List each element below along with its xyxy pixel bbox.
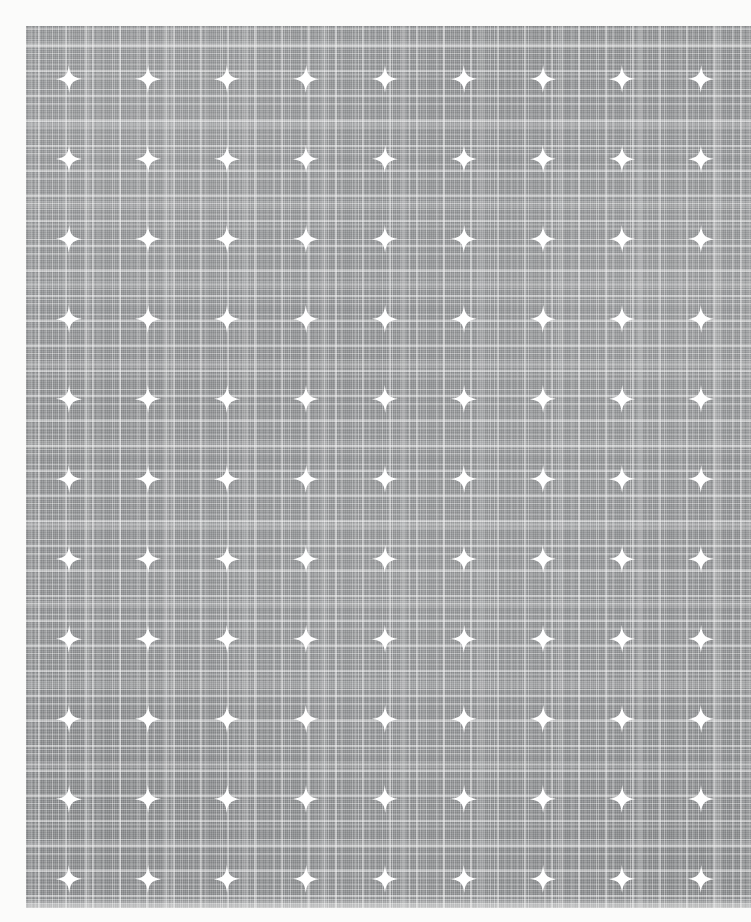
four-pointed-sparkle-icon: [135, 785, 161, 813]
four-pointed-sparkle-icon: [135, 225, 161, 253]
four-pointed-sparkle-icon: [56, 385, 82, 413]
four-pointed-sparkle-icon: [56, 225, 83, 254]
four-pointed-sparkle-icon: [372, 145, 399, 174]
four-pointed-sparkle-icon: [688, 385, 714, 413]
four-pointed-sparkle-icon: [293, 65, 320, 94]
four-pointed-sparkle-icon: [293, 465, 320, 494]
four-pointed-sparkle-icon: [293, 385, 319, 413]
four-pointed-sparkle-icon: [372, 225, 398, 253]
four-pointed-sparkle-icon: [372, 465, 398, 493]
four-pointed-sparkle-icon: [451, 385, 477, 413]
four-pointed-sparkle-icon: [688, 305, 715, 334]
four-pointed-sparkle-icon: [609, 385, 636, 414]
four-pointed-sparkle-icon: [56, 465, 83, 494]
four-pointed-sparkle-icon: [688, 465, 715, 494]
four-pointed-sparkle-icon: [609, 65, 635, 93]
image-canvas: [0, 0, 751, 922]
four-pointed-sparkle-icon: [56, 625, 83, 654]
four-pointed-sparkle-icon: [609, 465, 635, 493]
four-pointed-sparkle-icon: [135, 305, 162, 334]
four-pointed-sparkle-icon: [609, 865, 635, 893]
four-pointed-sparkle-icon: [530, 305, 557, 334]
four-pointed-sparkle-icon: [135, 65, 161, 93]
four-pointed-sparkle-icon: [609, 305, 635, 333]
four-pointed-sparkle-icon: [135, 145, 162, 174]
four-pointed-sparkle-icon: [214, 545, 240, 573]
four-pointed-sparkle-icon: [372, 865, 398, 893]
four-pointed-sparkle-icon: [688, 145, 714, 173]
four-pointed-sparkle-icon: [135, 705, 162, 734]
four-pointed-sparkle-icon: [688, 785, 714, 813]
four-pointed-sparkle-icon: [372, 705, 398, 733]
four-pointed-sparkle-icon: [135, 625, 161, 653]
sparkle-motif-grid: [26, 26, 751, 908]
four-pointed-sparkle-icon: [530, 705, 557, 734]
four-pointed-sparkle-icon: [688, 65, 715, 94]
four-pointed-sparkle-icon: [56, 65, 83, 94]
four-pointed-sparkle-icon: [530, 145, 557, 174]
four-pointed-sparkle-icon: [609, 705, 635, 733]
four-pointed-sparkle-icon: [293, 865, 320, 894]
four-pointed-sparkle-icon: [688, 705, 715, 734]
four-pointed-sparkle-icon: [214, 465, 240, 493]
four-pointed-sparkle-icon: [135, 545, 162, 574]
four-pointed-sparkle-icon: [451, 705, 477, 733]
four-pointed-sparkle-icon: [451, 305, 477, 333]
four-pointed-sparkle-icon: [451, 545, 477, 573]
four-pointed-sparkle-icon: [530, 865, 556, 893]
four-pointed-sparkle-icon: [214, 145, 240, 173]
four-pointed-sparkle-icon: [451, 865, 478, 894]
four-pointed-sparkle-icon: [293, 225, 319, 253]
four-pointed-sparkle-icon: [214, 385, 241, 414]
four-pointed-sparkle-icon: [293, 305, 320, 334]
four-pointed-sparkle-icon: [451, 785, 477, 813]
four-pointed-sparkle-icon: [688, 225, 714, 253]
four-pointed-sparkle-icon: [214, 705, 240, 733]
four-pointed-sparkle-icon: [56, 545, 82, 573]
four-pointed-sparkle-icon: [56, 705, 82, 733]
four-pointed-sparkle-icon: [451, 625, 478, 654]
four-pointed-sparkle-icon: [609, 625, 636, 654]
four-pointed-sparkle-icon: [293, 625, 319, 653]
four-pointed-sparkle-icon: [214, 305, 240, 333]
four-pointed-sparkle-icon: [609, 785, 636, 814]
four-pointed-sparkle-icon: [372, 625, 398, 653]
four-pointed-sparkle-icon: [56, 785, 82, 813]
four-pointed-sparkle-icon: [530, 385, 556, 413]
four-pointed-sparkle-icon: [293, 145, 319, 173]
four-pointed-sparkle-icon: [451, 465, 478, 494]
four-pointed-sparkle-icon: [609, 545, 635, 573]
four-pointed-sparkle-icon: [135, 465, 161, 493]
four-pointed-sparkle-icon: [530, 545, 557, 574]
four-pointed-sparkle-icon: [530, 625, 556, 653]
four-pointed-sparkle-icon: [451, 65, 478, 94]
four-pointed-sparkle-icon: [688, 625, 714, 653]
four-pointed-sparkle-icon: [293, 545, 319, 573]
four-pointed-sparkle-icon: [530, 465, 556, 493]
four-pointed-sparkle-icon: [451, 225, 478, 254]
fabric-swatch: [26, 26, 751, 908]
four-pointed-sparkle-icon: [609, 225, 636, 254]
four-pointed-sparkle-icon: [56, 305, 82, 333]
four-pointed-sparkle-icon: [56, 145, 82, 173]
four-pointed-sparkle-icon: [372, 385, 399, 414]
four-pointed-sparkle-icon: [530, 785, 556, 813]
four-pointed-sparkle-icon: [293, 785, 319, 813]
four-pointed-sparkle-icon: [214, 65, 240, 93]
four-pointed-sparkle-icon: [688, 545, 714, 573]
four-pointed-sparkle-icon: [135, 385, 161, 413]
four-pointed-sparkle-icon: [214, 785, 241, 814]
four-pointed-sparkle-icon: [372, 65, 398, 93]
four-pointed-sparkle-icon: [372, 785, 399, 814]
four-pointed-sparkle-icon: [214, 225, 241, 254]
four-pointed-sparkle-icon: [214, 865, 240, 893]
four-pointed-sparkle-icon: [609, 145, 635, 173]
four-pointed-sparkle-icon: [372, 305, 398, 333]
four-pointed-sparkle-icon: [372, 545, 399, 574]
four-pointed-sparkle-icon: [56, 865, 83, 894]
four-pointed-sparkle-icon: [688, 865, 715, 894]
four-pointed-sparkle-icon: [530, 65, 556, 93]
four-pointed-sparkle-icon: [293, 705, 320, 734]
four-pointed-sparkle-icon: [451, 145, 477, 173]
four-pointed-sparkle-icon: [214, 625, 241, 654]
